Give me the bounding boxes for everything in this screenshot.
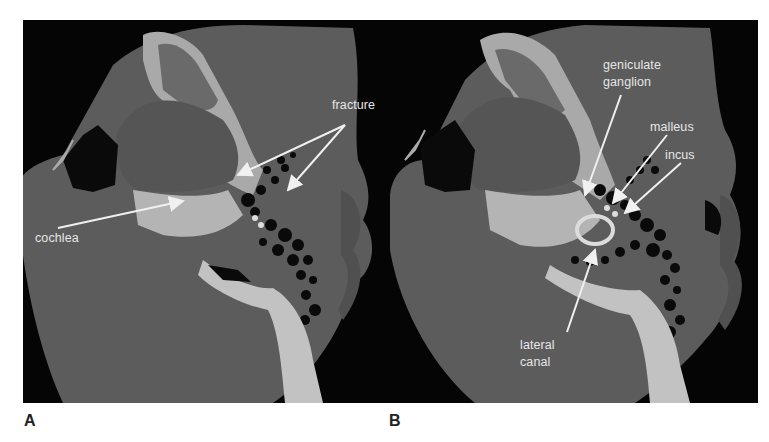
panel-b-ct-image: geniculate ganglion malleus incus latera… [385,20,758,403]
label-canal: canal [520,355,550,370]
annotation-arrows-b [385,20,758,403]
label-cochlea: cochlea [35,231,79,246]
label-incus: incus [665,148,695,163]
ct-figure: fracture cochlea [23,20,758,403]
label-malleus: malleus [650,120,694,135]
panel-letter-a: A [24,412,36,430]
label-geniculate: geniculate [603,58,661,73]
label-ganglion: ganglion [603,75,651,90]
label-fracture: fracture [332,98,375,113]
panel-a-ct-image: fracture cochlea [23,20,385,403]
label-lateral: lateral [520,338,555,353]
panel-letter-b: B [389,412,401,430]
annotation-arrows-a [23,20,385,403]
